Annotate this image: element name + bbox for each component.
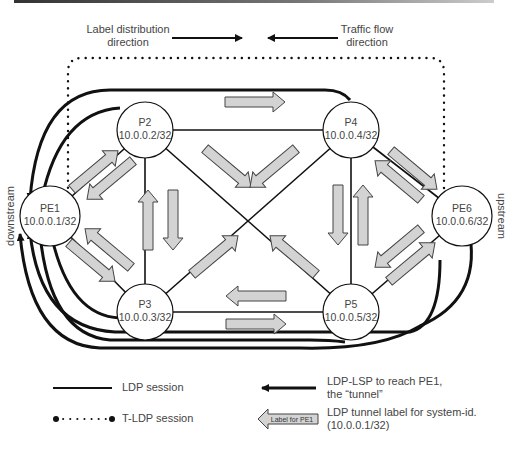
node-P4: P4 10.0.0.4/32 <box>323 102 379 158</box>
svg-text:10.0.0.4/32: 10.0.0.4/32 <box>325 129 378 141</box>
node-P2: P2 10.0.0.2/32 <box>117 102 173 158</box>
downstream-label: downstream <box>4 186 16 246</box>
node-PE6: PE6 10.0.0.6/32 <box>432 186 492 246</box>
node-PE1: PE1 10.0.0.1/32 <box>20 186 80 246</box>
svg-text:PE1: PE1 <box>40 202 60 214</box>
legend-tldp-session: T-LDP session <box>122 412 193 425</box>
legend-ldp-lsp: LDP-LSP to reach PE1, the “tunnel” <box>327 375 442 401</box>
node-P5: P5 10.0.0.5/32 <box>323 284 379 340</box>
tunnel-label-swatch: Label for PE1 <box>258 409 318 429</box>
svg-text:PE6: PE6 <box>452 202 472 214</box>
svg-text:P4: P4 <box>345 116 358 128</box>
label-distribution-text: Label distribution <box>86 23 169 35</box>
svg-text:P2: P2 <box>139 116 152 128</box>
svg-text:P3: P3 <box>139 298 152 310</box>
svg-text:P5: P5 <box>345 298 358 310</box>
legend-tunnel-label: LDP tunnel label for system-id. (10.0.0.… <box>327 406 477 432</box>
svg-text:Label for PE1: Label for PE1 <box>271 416 314 423</box>
svg-text:10.0.0.5/32: 10.0.0.5/32 <box>325 311 378 323</box>
direction-header: Label distribution direction Traffic flo… <box>86 23 393 48</box>
upstream-label: upstream <box>496 193 508 239</box>
svg-text:10.0.0.3/32: 10.0.0.3/32 <box>119 311 172 323</box>
svg-text:10.0.0.2/32: 10.0.0.2/32 <box>119 129 172 141</box>
svg-text:direction: direction <box>346 36 388 48</box>
svg-text:10.0.0.6/32: 10.0.0.6/32 <box>436 215 489 227</box>
svg-text:10.0.0.1/32: 10.0.0.1/32 <box>24 215 77 227</box>
legend-ldp-session: LDP session <box>122 381 184 394</box>
svg-text:direction: direction <box>107 36 149 48</box>
node-P3: P3 10.0.0.3/32 <box>117 284 173 340</box>
traffic-flow-text: Traffic flow <box>341 23 394 35</box>
